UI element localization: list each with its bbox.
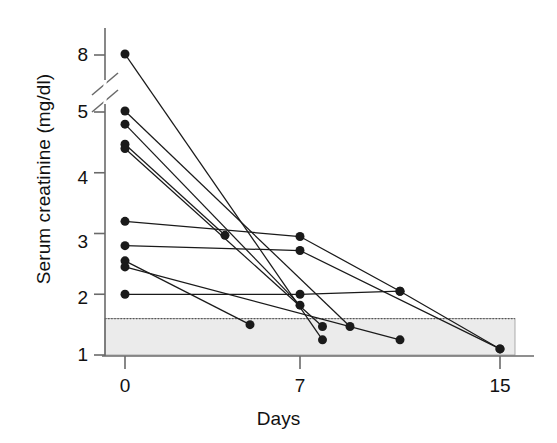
data-point [318,322,327,331]
y-axis-ticks [94,55,105,355]
series-line-8 [125,261,250,325]
y-axis-title: Serum creatinine (mg/dl) [33,39,55,319]
y-tick-label-1: 1 [60,344,88,366]
y-tick-label-8: 8 [60,44,88,66]
series-line-4 [125,144,225,235]
data-point [496,344,505,353]
series-line-10 [125,291,400,294]
data-point [346,322,355,331]
data-point [296,301,305,310]
x-tick-label-7: 7 [280,375,320,397]
x-tick-label-15: 15 [480,375,520,397]
series-points [121,50,505,354]
data-point [121,107,130,116]
y-tick-label-3: 3 [60,231,88,253]
data-point [121,50,130,59]
data-point [121,290,130,299]
data-point [221,231,230,240]
data-point [296,232,305,241]
data-point [121,217,130,226]
chart-figure: Serum creatinine (mg/dl) Days 8 5 4 3 2 … [0,0,557,443]
normal-range-fill [105,319,515,355]
series-lines [125,54,500,349]
data-point [121,241,130,250]
data-point [396,335,405,344]
x-axis-ticks [125,356,500,369]
y-tick-label-5: 5 [60,101,88,123]
data-point [296,246,305,255]
data-point [246,320,255,329]
x-axis-title: Days [0,408,557,430]
chart-canvas [0,0,557,443]
data-point [396,287,405,296]
y-tick-label-2: 2 [60,287,88,309]
normal-range-band [105,319,515,355]
x-tick-label-0: 0 [105,375,145,397]
data-point [318,335,327,344]
y-tick-label-4: 4 [60,167,88,189]
series-line-3 [125,124,300,305]
data-point [121,262,130,271]
data-point [296,290,305,299]
data-point [121,144,130,153]
data-point [121,120,130,129]
